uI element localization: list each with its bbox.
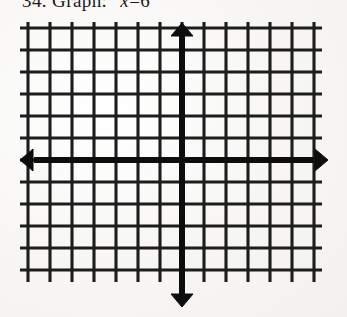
equation-rhs: 6 <box>140 0 150 11</box>
equation-lhs: x <box>120 0 129 11</box>
problem-number: 34. <box>22 0 47 11</box>
graph-svg <box>18 22 330 308</box>
axis-lines <box>20 23 328 307</box>
problem-instruction: Graph: <box>52 0 107 11</box>
problem-caption: 34. Graph:x=6 <box>22 0 150 10</box>
problem-equation: x=6 <box>120 0 150 11</box>
coordinate-grid <box>18 22 330 308</box>
equation-operator: = <box>129 0 140 11</box>
grid-lines <box>20 22 322 282</box>
y-axis-down-arrow-icon <box>171 294 193 307</box>
worksheet-page: 34. Graph:x=6 <box>0 0 347 317</box>
x-axis-right-arrow-icon <box>315 149 328 171</box>
